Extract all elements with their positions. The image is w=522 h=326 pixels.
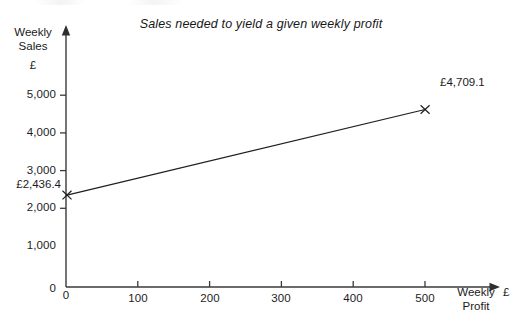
data-point-marker-start: [63, 191, 72, 200]
data-point-marker-end: [421, 105, 430, 114]
x-tick-label-0: 0: [46, 289, 86, 302]
y-axis-title-line1: Weekly: [6, 26, 60, 40]
x-tick-label-400: 400: [333, 292, 373, 305]
y-tick-label-5000: 5,000: [4, 88, 56, 101]
y-axis-title-line2: Sales: [6, 40, 60, 54]
x-tick-label-200: 200: [190, 292, 230, 305]
y-tick-label-1000: 1,000: [4, 239, 56, 252]
data-label-end: £4,709.1: [440, 76, 485, 88]
x-axis: [66, 283, 500, 291]
data-series-line: [67, 110, 425, 196]
data-label-start: £2,436.4: [4, 178, 61, 190]
x-tick-label-100: 100: [118, 292, 158, 305]
x-axis-title: Weekly Profit: [452, 286, 500, 313]
x-axis-title-line1: Weekly: [452, 286, 500, 300]
y-tick-label-4000: 4,000: [4, 126, 56, 139]
y-axis-currency-symbol: £: [6, 59, 60, 71]
y-tick-label-3000: 3,000: [4, 164, 56, 177]
x-tick-label-500: 500: [405, 292, 445, 305]
x-axis-ticks: [138, 281, 425, 287]
x-axis-currency-symbol: £: [503, 286, 509, 298]
y-axis: [62, 25, 70, 287]
x-tick-label-300: 300: [261, 292, 301, 305]
chart-figure: Sales needed to yield a given weekly pro…: [0, 0, 522, 326]
chart-plot-area: [0, 0, 522, 326]
y-tick-label-2000: 2,000: [4, 201, 56, 214]
x-axis-title-line2: Profit: [452, 300, 500, 314]
y-axis-title: Weekly Sales: [6, 26, 60, 53]
